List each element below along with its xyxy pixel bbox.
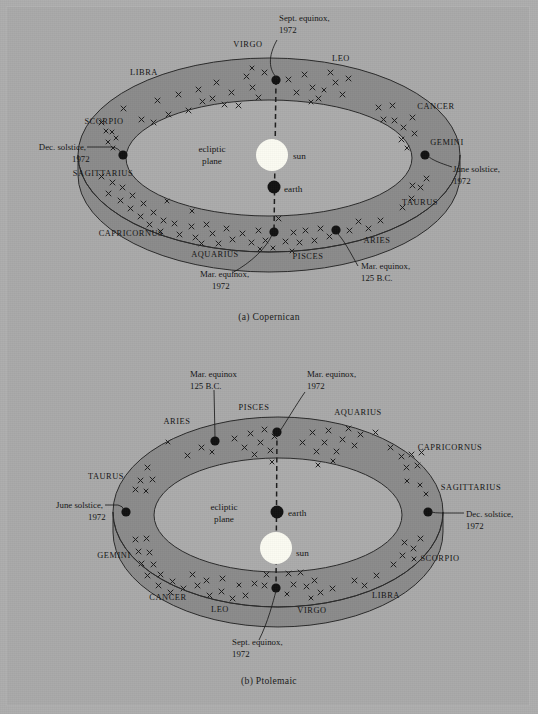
annot-sept-equinox-b-l2: 1972 (232, 649, 250, 659)
zodiac-label-cancer-b: CANCER (149, 593, 186, 602)
zodiac-label-libra-a: LIBRA (130, 68, 158, 77)
zodiac-label-taurus-a: TAURUS (402, 198, 438, 207)
annot-sept-equinox-a-l1: Sept. equinox, (279, 13, 330, 23)
node-mar-equinox-125bc-a (331, 225, 340, 234)
annot-sept-equinox-b-l1: Sept. equinox, (232, 637, 283, 647)
annot-mar-equinox-125bc-a-l2: 125 B.C. (361, 273, 393, 283)
zodiac-label-gemini-b: GEMINI (97, 551, 131, 560)
zodiac-label-scorpio-b: SCORPIO (420, 554, 459, 563)
zodiac-label-aries-a: ARIES (364, 236, 391, 245)
earth-body-b (271, 506, 284, 519)
earth-label-b: earth (288, 508, 307, 518)
annot-dec-solstice-b-l1: Dec. solstice, (466, 509, 513, 519)
node-mar-equinox-1972-b (272, 427, 281, 436)
zodiac-label-capricornus-a: CAPRICORNUS (99, 229, 164, 238)
node-june-solstice-a (420, 150, 429, 159)
annot-dec-solstice-a-l1: Dec. solstice, (39, 142, 86, 152)
figure-page: ecliptic plane sun earth VIRGO LEO LIBRA… (0, 0, 538, 714)
annot-june-solstice-a-l1: June solstice, (453, 164, 500, 174)
caption-ptolemaic: (b) Ptolemaic (241, 675, 297, 687)
sun-label-a: sun (293, 151, 306, 161)
earth-label-a: earth (284, 184, 303, 194)
annot-june-solstice-b-l1: June solstice, (56, 500, 103, 510)
ecliptic-plane-label-line2-a: plane (202, 156, 222, 166)
node-june-solstice-b (121, 507, 130, 516)
sun-body-b (260, 532, 292, 564)
figure-ptolemaic: ecliptic plane earth sun PISCES AQUARIUS… (0, 340, 538, 714)
zodiac-label-aquarius-a: AQUARIUS (191, 250, 239, 259)
figure-copernican: ecliptic plane sun earth VIRGO LEO LIBRA… (0, 0, 538, 345)
zodiac-label-gemini-a: GEMINI (430, 138, 464, 147)
zodiac-label-aries-b: ARIES (164, 417, 191, 426)
annot-mar-equinox-125bc-b-l1: Mar. equinox (190, 369, 238, 379)
ecliptic-plane-label-line1-a: ecliptic (198, 144, 225, 154)
annot-june-solstice-b-l2: 1972 (88, 512, 106, 522)
annot-dec-solstice-a-l2: 1972 (72, 154, 90, 164)
node-mar-equinox-125bc-b (210, 436, 219, 445)
zodiac-label-pisces-b: PISCES (239, 403, 270, 412)
zodiac-label-aquarius-b: AQUARIUS (334, 408, 382, 417)
annot-sept-equinox-a-l2: 1972 (279, 25, 297, 35)
zodiac-label-leo-b: LEO (211, 605, 229, 614)
annot-dec-solstice-b-l2: 1972 (466, 521, 484, 531)
node-dec-solstice-a (118, 150, 127, 159)
zodiac-label-libra-b: LIBRA (372, 591, 400, 600)
caption-copernican: (a) Copernican (238, 311, 299, 323)
sun-body-a (256, 139, 288, 171)
zodiac-label-taurus-b: TAURUS (88, 472, 124, 481)
zodiac-label-cancer-a: CANCER (417, 102, 454, 111)
zodiac-label-leo-a: LEO (332, 54, 350, 63)
zodiac-label-virgo-a: VIRGO (233, 40, 262, 49)
zodiac-label-sagittarius-a: SAGITTARIUS (73, 169, 133, 178)
zodiac-label-pisces-a: PISCES (293, 252, 324, 261)
earth-body-a (268, 181, 281, 194)
annot-mar-equinox-125bc-b-l2: 125 B.C. (190, 381, 222, 391)
sun-label-b: sun (296, 548, 309, 558)
zodiac-label-virgo-b: VIRGO (297, 606, 326, 615)
annot-mar-equinox-1972-a-l2: 1972 (212, 281, 230, 291)
zodiac-label-scorpio-a: SCORPIO (84, 117, 123, 126)
annot-mar-equinox-1972-a-l1: Mar. equinox, (200, 269, 249, 279)
annot-june-solstice-a-l2: 1972 (453, 176, 471, 186)
ecliptic-plane-label-line1-b: ecliptic (210, 502, 237, 512)
ecliptic-plane-label-line2-b: plane (214, 514, 234, 524)
annot-mar-equinox-1972-b-l2: 1972 (307, 381, 325, 391)
zodiac-label-sagittarius-b: SAGITTARIUS (441, 483, 501, 492)
annot-mar-equinox-125bc-a-l1: Mar. equinox, (361, 261, 410, 271)
annot-mar-equinox-1972-b-l1: Mar. equinox, (307, 369, 356, 379)
node-mar-equinox-1972-a (269, 227, 278, 236)
zodiac-label-capricornus-b: CAPRICORNUS (418, 443, 483, 452)
